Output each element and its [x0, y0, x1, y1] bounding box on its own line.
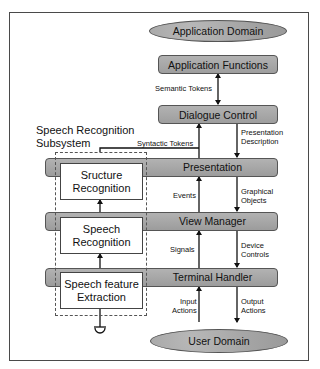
output-actions-line1: Output	[241, 297, 266, 306]
subsystem-title: Speech Recognition Subsystem	[36, 124, 134, 150]
events-label: Events	[173, 191, 196, 200]
subsystem-title-line2: Subsystem	[36, 137, 134, 150]
feature-extraction-line1: Speech feature	[64, 278, 139, 291]
user-domain-ellipse: User Domain	[150, 329, 288, 353]
dialogue-control-box: Dialogue Control	[158, 105, 278, 124]
device-controls-line2: Controls	[241, 250, 269, 259]
graphical-objects-line1: Graphical	[241, 187, 273, 196]
application-functions-label: Application Functions	[168, 59, 268, 71]
structure-recognition-line2: Recognition	[72, 182, 130, 195]
graphical-objects-line2: Objects	[241, 196, 273, 205]
structure-recognition-box: Sructure Recognition	[60, 163, 143, 200]
presentation-description-label: Presentation Description	[241, 128, 283, 146]
structure-recognition-line1: Sructure	[72, 169, 130, 182]
speech-recognition-line1: Speech	[72, 223, 130, 236]
speech-feature-extraction-box: Speech feature Extraction	[60, 272, 143, 309]
output-actions-line2: Actions	[241, 306, 266, 315]
device-controls-label: Device Controls	[241, 241, 269, 259]
speech-recognition-line2: Recognition	[72, 236, 130, 249]
feature-extraction-line2: Extraction	[64, 291, 139, 304]
input-actions-label: Input Actions	[171, 297, 197, 315]
microphone-icon	[94, 322, 106, 334]
presentation-description-line2: Description	[241, 137, 283, 146]
application-domain-label: Application Domain	[173, 25, 263, 37]
semantic-tokens-label: Semantic Tokens	[155, 84, 212, 93]
presentation-label: Presentation	[147, 161, 278, 173]
input-actions-line2: Actions	[171, 306, 197, 315]
subsystem-title-line1: Speech Recognition	[36, 124, 134, 137]
graphical-objects-label: Graphical Objects	[241, 187, 273, 205]
presentation-description-line1: Presentation	[241, 128, 283, 137]
syntactic-tokens-label: Syntactic Tokens	[137, 139, 193, 148]
terminal-handler-label: Terminal Handler	[147, 271, 278, 283]
application-functions-box: Application Functions	[158, 55, 278, 74]
input-actions-line1: Input	[171, 297, 197, 306]
device-controls-line1: Device	[241, 241, 269, 250]
speech-recognition-box: Speech Recognition	[60, 217, 143, 254]
application-domain-ellipse: Application Domain	[149, 20, 287, 42]
output-actions-label: Output Actions	[241, 297, 266, 315]
user-domain-label: User Domain	[188, 335, 249, 347]
view-manager-label: View Manager	[147, 215, 278, 227]
signals-label: Signals	[170, 245, 195, 254]
dialogue-control-label: Dialogue Control	[179, 109, 257, 121]
